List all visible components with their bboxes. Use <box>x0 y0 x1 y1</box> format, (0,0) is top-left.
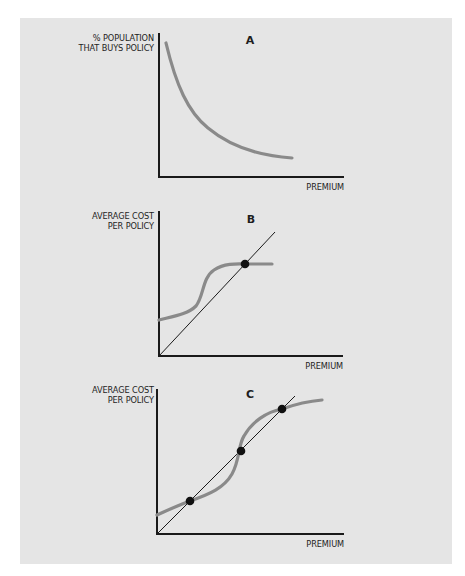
chart-c-equilibrium-point-low <box>186 497 195 506</box>
chart-b-average-cost-curve <box>159 264 272 320</box>
chart-c-title: C <box>246 388 254 401</box>
chart-c-y-label-line-2: PER POLICY <box>108 395 155 405</box>
chart-c-equilibrium-point-high <box>278 405 287 414</box>
chart-c: AVERAGE COST PER POLICY C PREMIUM <box>92 385 344 549</box>
chart-a: % POPULATION THAT BUYS POLICY A PREMIUM <box>78 33 344 192</box>
chart-b: AVERAGE COST PER POLICY B PREMIUM <box>92 211 343 371</box>
chart-a-title: A <box>246 34 255 47</box>
chart-b-x-label: PREMIUM <box>305 361 343 371</box>
chart-b-title: B <box>247 213 255 226</box>
chart-b-y-label-line-1: AVERAGE COST <box>92 211 155 221</box>
chart-a-y-label-line-2: THAT BUYS POLICY <box>78 43 156 53</box>
chart-a-x-label: PREMIUM <box>306 182 344 192</box>
chart-b-equilibrium-point <box>241 260 250 269</box>
chart-b-45-degree-line <box>159 232 275 356</box>
chart-a-y-label-line-1: % POPULATION <box>93 33 154 43</box>
chart-b-y-label-line-2: PER POLICY <box>108 221 155 231</box>
chart-c-x-label: PREMIUM <box>306 539 344 549</box>
chart-c-equilibrium-point-mid <box>237 447 246 456</box>
chart-c-average-cost-curve <box>157 400 322 515</box>
chart-c-axes <box>157 389 344 534</box>
chart-a-demand-curve <box>166 43 292 158</box>
chart-b-axes <box>159 211 343 356</box>
chart-c-y-label-line-1: AVERAGE COST <box>92 385 155 395</box>
chart-c-45-degree-line <box>157 396 295 534</box>
figure-svg: % POPULATION THAT BUYS POLICY A PREMIUM … <box>0 0 465 576</box>
